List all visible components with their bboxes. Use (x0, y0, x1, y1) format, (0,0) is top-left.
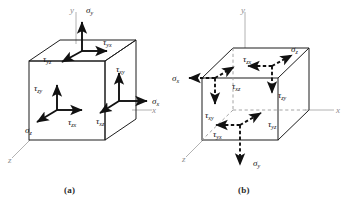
tau-zy-label: τzy (34, 83, 43, 94)
sigma-y-label: σy (86, 5, 93, 16)
x-axis-label: x (151, 105, 156, 115)
panel-b-back-stresses (248, 55, 292, 93)
tau-yx-label: τyx (213, 129, 222, 140)
panel-b-axes (186, 12, 334, 157)
caption-a: (a) (64, 185, 75, 195)
panel-a-right-stresses (100, 73, 147, 113)
y-axis-label: y (69, 5, 74, 15)
caption-b: (b) (238, 185, 250, 195)
tau-xy-label: τxy (116, 64, 125, 75)
right-face-edges (278, 48, 309, 140)
tau-xz-arrow (100, 101, 119, 113)
sigma-x-label: σx (172, 73, 179, 84)
tau-zx-label: τzx (68, 117, 77, 128)
tau-yz-arrow (62, 51, 82, 62)
tau-xz-label: τxz (232, 81, 241, 92)
tau-yz-label: τyz (268, 119, 277, 130)
sigma-z-label: σz (25, 125, 32, 136)
tau-xz-label: τxz (96, 116, 105, 127)
right-face (105, 40, 136, 140)
x-axis-label: x (335, 105, 340, 115)
tau-xy-label: τxy (205, 110, 214, 121)
front-face (29, 61, 105, 140)
z-axis-label: z (7, 155, 12, 165)
stress-element-figure: y x z σy τyx τyz σz τzy (0, 0, 348, 213)
tau-zx-label: τzx (243, 54, 252, 65)
tau-zy-label: τzy (278, 90, 287, 101)
sigma-y-label: σy (253, 158, 260, 169)
tau-yz-label: τyz (43, 54, 52, 65)
panel-a-top-stresses (62, 22, 107, 62)
sigma-x-label: σx (152, 96, 159, 107)
y-axis-label: y (240, 5, 245, 15)
z-axis-line (186, 140, 203, 157)
tau-yz-arrow (240, 113, 261, 125)
z-axis-line (12, 140, 30, 158)
panel-b-cube (202, 48, 309, 140)
sigma-z-arrow (37, 110, 57, 122)
sigma-z-label: σz (291, 44, 298, 55)
sigma-z-arrow (272, 55, 292, 66)
panel-b-left-stresses (189, 67, 234, 104)
z-axis-label: z (181, 154, 186, 164)
figure-canvas: y x z σy τyx τyz σz τzy (0, 0, 348, 213)
tau-yx-label: τyx (103, 37, 112, 48)
tau-xz-arrow (215, 67, 234, 78)
panel-a-front-stresses (37, 85, 82, 122)
panel-a: y x z σy τyx τyz σz τzy (7, 5, 159, 165)
panel-b: y x z σy τyx τyz σz τzy (172, 5, 340, 169)
